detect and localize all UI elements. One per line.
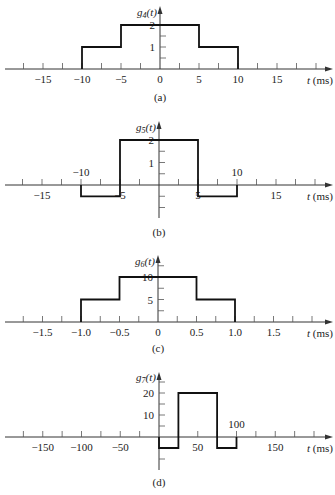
x-axis-label-unit: (ms) — [310, 74, 333, 87]
x-axis-label-unit: (ms) — [310, 190, 333, 203]
y-axis-arrow-icon — [157, 372, 162, 380]
x-tick-label: 150 — [267, 441, 284, 453]
y-tick-label: 1 — [149, 157, 155, 169]
x-axis-label-unit: (ms) — [310, 442, 333, 455]
x-tick-label: 15 — [271, 189, 283, 201]
plot-c: −1.5−1.0−0.500.51.01.5510g6(t)t (ms)(c) — [5, 255, 333, 355]
x-tick-label: −0.5 — [110, 326, 130, 338]
y-axis-arrow-icon — [156, 255, 161, 263]
y-axis-label-arg: (t) — [147, 6, 158, 19]
x-tick-label: 15 — [272, 73, 284, 85]
y-axis-arrow-icon — [158, 6, 163, 14]
x-tick-label: −100 — [70, 441, 93, 453]
subfigure-label: (b) — [153, 226, 166, 239]
x-tick-label: 50 — [192, 441, 204, 453]
subfigure-label: (a) — [154, 91, 167, 104]
x-axis-label: t (ms) — [307, 74, 333, 87]
x-tick-label: −15 — [33, 189, 51, 201]
y-axis-label: g4(t) — [137, 6, 157, 20]
x-tick-label: −5 — [115, 73, 127, 85]
x-tick-label: 100 — [228, 418, 245, 430]
x-axis-label: t (ms) — [307, 190, 333, 203]
x-tick-label: −1.5 — [33, 326, 53, 338]
y-axis-label: g5(t) — [136, 121, 156, 135]
plot-b: −15−10−55101512g5(t)t (ms)(b) — [5, 121, 333, 239]
x-tick-label: 1.5 — [267, 326, 281, 338]
y-tick-label: 20 — [143, 387, 155, 399]
x-tick-label: 0 — [157, 73, 163, 85]
x-tick-label: 5 — [196, 73, 202, 85]
x-axis-label-unit: (ms) — [310, 327, 333, 340]
y-axis-arrow-icon — [157, 121, 162, 129]
y-axis-label-arg: (t) — [145, 255, 156, 268]
x-axis-arrow-icon — [325, 67, 333, 72]
x-tick-label: 10 — [233, 73, 245, 85]
x-tick-label: 1.0 — [228, 326, 242, 338]
y-axis-label: g7(t) — [136, 371, 156, 385]
x-tick-label: 0 — [155, 326, 161, 338]
y-axis-label-arg: (t) — [146, 121, 157, 134]
signal-waveform — [159, 393, 237, 448]
y-tick-label: 10 — [143, 409, 155, 421]
x-axis-arrow-icon — [325, 435, 333, 440]
x-tick-label: 10 — [232, 166, 244, 178]
y-axis-label-arg: (t) — [146, 371, 157, 384]
y-tick-label: 1 — [150, 41, 156, 53]
x-tick-label: −10 — [73, 73, 91, 85]
plot-a: −15−10−505101512g4(t)t (ms)(a) — [5, 6, 333, 104]
x-tick-label: −10 — [72, 166, 90, 178]
x-tick-label: −1.0 — [71, 326, 91, 338]
x-tick-label: −15 — [34, 73, 52, 85]
x-axis-label: t (ms) — [307, 442, 333, 455]
x-axis-arrow-icon — [325, 320, 333, 325]
subfigure-label: (d) — [153, 476, 166, 489]
y-tick-label: 5 — [148, 294, 154, 306]
x-tick-label: −50 — [112, 441, 130, 453]
figure: −15−10−505101512g4(t)t (ms)(a) −15−10−55… — [0, 0, 335, 495]
x-axis-label: t (ms) — [307, 327, 333, 340]
y-axis-label: g6(t) — [135, 255, 155, 269]
x-tick-label: −150 — [31, 441, 54, 453]
plot-d: −150−100−50501001501020g7(t)t (ms)(d) — [5, 371, 333, 489]
x-axis-arrow-icon — [325, 183, 333, 188]
x-tick-label: 0.5 — [190, 326, 204, 338]
subfigure-label: (c) — [152, 342, 165, 355]
